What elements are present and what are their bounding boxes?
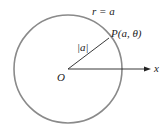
x-axis-label: x (153, 62, 159, 74)
point-p-label: P(a, θ) (110, 27, 142, 40)
x-axis-arrow-icon (144, 67, 151, 72)
radius-label: |a| (77, 41, 89, 53)
circle-equation-label: r = a (92, 5, 115, 17)
origin-label: O (57, 71, 65, 83)
polar-circle-diagram: r = a P(a, θ) |a| O x (0, 0, 167, 130)
